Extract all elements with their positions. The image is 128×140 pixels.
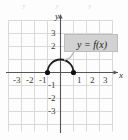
x-axis-arrow xyxy=(114,70,119,74)
ytick-neg1: -1 xyxy=(48,81,56,90)
function-label-text: y = f(x) xyxy=(65,35,119,53)
function-label-callout: y = f(x) xyxy=(64,34,118,52)
y-axis-label: y xyxy=(55,11,59,21)
coordinate-plot xyxy=(0,0,128,140)
xtick-1: 1 xyxy=(77,76,82,85)
callout-tail xyxy=(64,52,74,60)
ytick-neg2: -2 xyxy=(48,94,56,103)
ytick-3: 3 xyxy=(51,29,56,38)
xtick-neg2: -2 xyxy=(26,76,34,85)
ytick-neg3: -3 xyxy=(48,107,56,116)
xtick-neg3: -3 xyxy=(13,76,21,85)
endpoint-right xyxy=(71,70,76,75)
xtick-3: 3 xyxy=(103,76,108,85)
xtick-neg1: -1 xyxy=(39,76,47,85)
x-axis-label: x xyxy=(119,70,123,80)
ytick-2: 2 xyxy=(51,42,56,51)
figure-container: y y y xyxy=(0,0,128,140)
y-axis-arrow xyxy=(58,14,62,19)
xtick-2: 2 xyxy=(90,76,95,85)
